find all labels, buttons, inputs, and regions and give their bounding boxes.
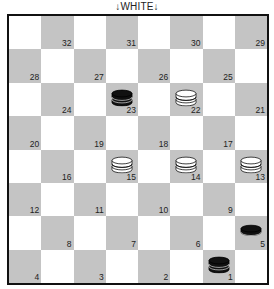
light-square: [74, 16, 106, 49]
square-17[interactable]: 17: [203, 116, 235, 149]
square-3[interactable]: 3: [74, 250, 106, 283]
square-number: 29: [256, 39, 265, 48]
square-number: 27: [94, 73, 103, 82]
square-number: 23: [127, 106, 136, 115]
square-number: 26: [159, 73, 168, 82]
square-23[interactable]: 23: [106, 83, 138, 116]
square-27[interactable]: 27: [74, 49, 106, 82]
black-king-piece-icon[interactable]: [208, 254, 230, 278]
square-number: 28: [30, 73, 39, 82]
light-square: [9, 150, 41, 183]
square-number: 32: [62, 39, 71, 48]
light-square: [106, 250, 138, 283]
square-26[interactable]: 26: [138, 49, 170, 82]
light-square: [41, 250, 73, 283]
square-number: 30: [191, 39, 200, 48]
square-number: 14: [191, 173, 200, 182]
square-18[interactable]: 18: [138, 116, 170, 149]
square-21[interactable]: 21: [235, 83, 267, 116]
light-square: [138, 16, 170, 49]
square-31[interactable]: 31: [106, 16, 138, 49]
light-square: [235, 116, 267, 149]
square-30[interactable]: 30: [170, 16, 202, 49]
square-number: 7: [131, 240, 136, 249]
square-16[interactable]: 16: [41, 150, 73, 183]
square-number: 21: [256, 106, 265, 115]
square-1[interactable]: 1: [203, 250, 235, 283]
square-13[interactable]: 13: [235, 150, 267, 183]
square-number: 19: [94, 140, 103, 149]
square-32[interactable]: 32: [41, 16, 73, 49]
square-number: 24: [62, 106, 71, 115]
square-number: 15: [127, 173, 136, 182]
square-9[interactable]: 9: [203, 183, 235, 216]
square-14[interactable]: 14: [170, 150, 202, 183]
square-11[interactable]: 11: [74, 183, 106, 216]
square-number: 6: [196, 240, 201, 249]
light-square: [41, 49, 73, 82]
square-20[interactable]: 20: [9, 116, 41, 149]
board-orientation-label: ↓WHITE↓: [0, 0, 274, 13]
square-4[interactable]: 4: [9, 250, 41, 283]
black-man-piece-icon[interactable]: [240, 224, 262, 242]
square-number: 11: [95, 206, 104, 215]
square-29[interactable]: 29: [235, 16, 267, 49]
light-square: [170, 183, 202, 216]
light-square: [9, 216, 41, 249]
square-number: 25: [223, 73, 232, 82]
light-square: [106, 116, 138, 149]
square-22[interactable]: 22: [170, 83, 202, 116]
light-square: [138, 83, 170, 116]
square-number: 17: [223, 140, 232, 149]
square-25[interactable]: 25: [203, 49, 235, 82]
square-number: 5: [260, 240, 265, 249]
square-number: 9: [228, 206, 233, 215]
square-number: 2: [164, 273, 169, 282]
square-number: 16: [62, 173, 71, 182]
checkers-board: 3231302928272625242322212019181716151413…: [7, 14, 269, 285]
square-number: 13: [256, 173, 265, 182]
square-12[interactable]: 12: [9, 183, 41, 216]
light-square: [74, 83, 106, 116]
light-square: [41, 183, 73, 216]
light-square: [170, 49, 202, 82]
light-square: [138, 216, 170, 249]
light-square: [74, 216, 106, 249]
square-19[interactable]: 19: [74, 116, 106, 149]
light-square: [170, 116, 202, 149]
light-square: [138, 150, 170, 183]
square-10[interactable]: 10: [138, 183, 170, 216]
light-square: [9, 83, 41, 116]
square-8[interactable]: 8: [41, 216, 73, 249]
square-28[interactable]: 28: [9, 49, 41, 82]
light-square: [41, 116, 73, 149]
light-square: [9, 16, 41, 49]
square-number: 4: [35, 273, 40, 282]
light-square: [235, 49, 267, 82]
square-number: 20: [30, 140, 39, 149]
square-2[interactable]: 2: [138, 250, 170, 283]
light-square: [235, 183, 267, 216]
square-number: 12: [30, 206, 39, 215]
light-square: [106, 183, 138, 216]
square-7[interactable]: 7: [106, 216, 138, 249]
square-6[interactable]: 6: [170, 216, 202, 249]
light-square: [203, 150, 235, 183]
square-15[interactable]: 15: [106, 150, 138, 183]
square-number: 31: [127, 39, 136, 48]
light-square: [74, 150, 106, 183]
square-number: 10: [159, 206, 168, 215]
light-square: [203, 16, 235, 49]
square-5[interactable]: 5: [235, 216, 267, 249]
light-square: [235, 250, 267, 283]
square-24[interactable]: 24: [41, 83, 73, 116]
light-square: [106, 49, 138, 82]
square-number: 1: [228, 273, 233, 282]
light-square: [203, 216, 235, 249]
light-square: [203, 83, 235, 116]
square-number: 3: [99, 273, 104, 282]
square-number: 18: [159, 140, 168, 149]
square-number: 22: [191, 106, 200, 115]
light-square: [170, 250, 202, 283]
square-number: 8: [67, 240, 72, 249]
